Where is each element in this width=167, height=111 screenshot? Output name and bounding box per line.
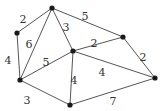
edge-weight-label: 6 [26,38,33,51]
edge-B-E [17,33,20,80]
edge-weight-label: 3 [63,21,70,34]
node-F [67,102,72,107]
edge-weight-label: 2 [20,13,27,26]
edge-weight-label: 7 [110,95,117,108]
edge-weight-label: 5 [82,10,89,23]
edge-C-D [73,37,123,51]
node-D [120,34,125,39]
weighted-graph: 263545244237 [0,0,167,111]
node-A [49,5,54,10]
edge-weight-label: 3 [24,94,31,107]
edge-weight-label: 4 [99,66,106,79]
weight-labels-layer: 263545244237 [5,10,147,108]
edge-weight-label: 5 [43,56,50,69]
node-B [14,30,19,35]
node-C [70,48,75,53]
edge-weight-label: 2 [91,37,98,50]
edge-weight-label: 4 [71,74,78,87]
node-G [152,75,157,80]
edge-weight-label: 4 [5,54,12,67]
node-E [17,77,22,82]
edge-weight-label: 2 [140,51,147,64]
